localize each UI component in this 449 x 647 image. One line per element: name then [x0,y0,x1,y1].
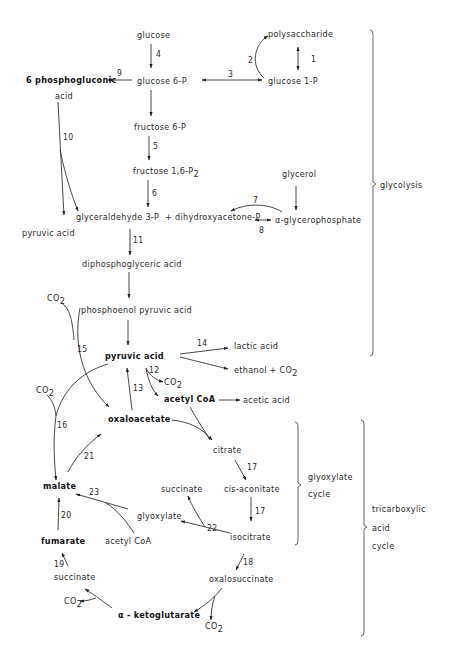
reaction-number-7: 7 [253,195,258,205]
reaction-number-18: 18 [243,557,253,567]
label-alpha-glycerophosphate: α-glycerophosphate [275,215,361,225]
label-ethanol-co2: ethanol + CO2 [234,365,298,378]
label-glyceraldehyde-3p: glyceraldehyde 3-P [76,212,159,222]
arrow-22-glyoxylate [181,521,230,533]
reaction-number-3: 3 [228,69,233,79]
reaction-number-4: 4 [156,49,161,59]
label-polysaccharide: polysaccharide [268,29,333,39]
reaction-number-13: 13 [133,383,143,393]
arrow-16-co2 [47,395,56,416]
arrow-23 [76,494,128,509]
label-acetyl-coa: acetyl CoA [164,394,216,404]
label-dihydroxyacetone-p: + dihydroxyacetone-P [165,212,261,222]
reaction-number-22: 22 [207,523,217,533]
label-6-phosphogluconic: 6 phosphogluconic [26,75,117,85]
label-acetic-acid: acetic acid [243,395,290,405]
arrow-oaa-citrate [172,420,212,440]
label-co2-16: CO2 [36,385,54,398]
reaction-number-12: 12 [149,365,159,375]
arrow-7 [231,205,282,212]
arrow-2 [255,36,268,78]
reaction-number-17b: 17 [255,506,265,516]
reaction-number-14: 14 [197,338,207,348]
arrow-15-co2 [62,303,74,340]
label-glycolysis: glycolysis [380,180,422,190]
label-phosphoenol-pyruvic-acid: phosphoenol pyruvic acid [81,305,192,315]
label-co2-15: CO2 [47,293,65,306]
label-phosphogluconic-acid: acid [55,91,73,101]
reaction-number-10: 10 [63,132,73,142]
reaction-number-11: 11 [133,235,143,245]
label-pyruvic-acid: pyruvic acid [105,351,164,361]
label-acetyl-coa-glyoxylate: acetyl CoA [105,536,151,546]
pathway-labels: glycolysis glyoxylate cycle tricarboxyli… [308,180,426,551]
reaction-number-23: 23 [89,487,99,497]
label-alpha-ketoglutarate: α - ketoglutarate [118,610,200,620]
label-lactic-acid: lactic acid [234,341,278,351]
reaction-number-6: 6 [152,188,157,198]
arrow-14a [180,348,228,354]
label-fumarate: fumarate [41,536,86,546]
label-co2-akg: CO2 [64,596,82,609]
glyoxylate-cycle-bracket [295,422,301,545]
label-glyoxylate: glyoxylate [137,511,182,521]
label-citrate: citrate [213,445,241,455]
arrow-acoa-citrate [190,407,210,440]
arrow-17a [235,460,246,480]
reaction-number-5: 5 [153,141,158,151]
label-oxalosuccinate: oxalosuccinate [209,574,274,584]
label-diphosphoglyceric-acid: diphosphoglyceric acid [82,259,182,269]
label-pyruvic-acid-glycolysis: pyruvic acid [22,228,75,238]
label-glucose-6p: glucose 6-P [137,76,187,86]
label-oxaloacetate: oxaloacetate [108,414,171,424]
label-tca-line2: acid [372,523,390,533]
label-glyoxylate-cycle-line1: glyoxylate [308,472,353,482]
arrow-10a [58,102,64,215]
reaction-number-15: 15 [77,344,87,354]
arrow-14b [180,357,228,369]
label-glucose: glucose [137,30,170,40]
reaction-number-8: 8 [259,225,264,235]
label-glyoxylate-cycle-line2: cycle [308,489,330,499]
reaction-number-16: 16 [57,420,67,430]
label-tca-line1: tricarboxylic [372,504,426,514]
arrow-20 [58,498,59,530]
reaction-number-20: 20 [61,510,71,520]
label-glycerol: glycerol [282,169,316,179]
label-succinate-glyoxylate: succinate [161,484,202,494]
label-co2-oxalosuccinate: CO2 [205,621,223,634]
metabolic-pathway-diagram: glucose polysaccharide glucose 6-P gluco… [0,0,449,647]
arrow-10b [60,150,78,211]
pathway-brackets [295,30,376,636]
arrow-13 [127,368,132,410]
reaction-number-9: 9 [117,68,122,78]
label-fructose-16p2: fructose 1,6-P2 [133,166,199,179]
label-co2-12: CO2 [164,377,182,390]
arrow-akg-succ [85,589,112,608]
arrow-akg-co2 [80,598,96,601]
reaction-number-17a: 17 [247,462,257,472]
label-succinate: succinate [54,572,95,582]
arrow-22-succinate [188,496,205,527]
label-glucose-1p: glucose 1-P [268,76,318,86]
label-tca-line3: cycle [372,541,394,551]
glycolysis-bracket [370,30,376,356]
label-isocitrate: isocitrate [230,532,271,542]
arrow-23-acoa [106,503,134,533]
reaction-number-2: 2 [248,55,253,65]
label-cis-aconitate: cis-aconitate [224,484,280,494]
arrow-os-akg [194,588,222,612]
tca-cycle-bracket [361,420,367,636]
reaction-number-21: 21 [84,451,94,461]
reaction-number-1: 1 [311,54,316,64]
label-malate: malate [43,481,77,491]
reaction-number-19: 19 [54,559,64,569]
label-fructose-6p: fructose 6-P [134,122,186,132]
